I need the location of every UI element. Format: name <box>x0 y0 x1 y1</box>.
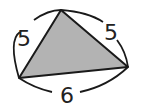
left-side-label: 5 <box>17 26 31 51</box>
triangle-diagram: 5 5 6 <box>0 0 141 109</box>
right-side-label: 5 <box>104 20 118 45</box>
bottom-side-label: 6 <box>60 83 74 108</box>
bottom-side-arc-left <box>19 78 52 92</box>
